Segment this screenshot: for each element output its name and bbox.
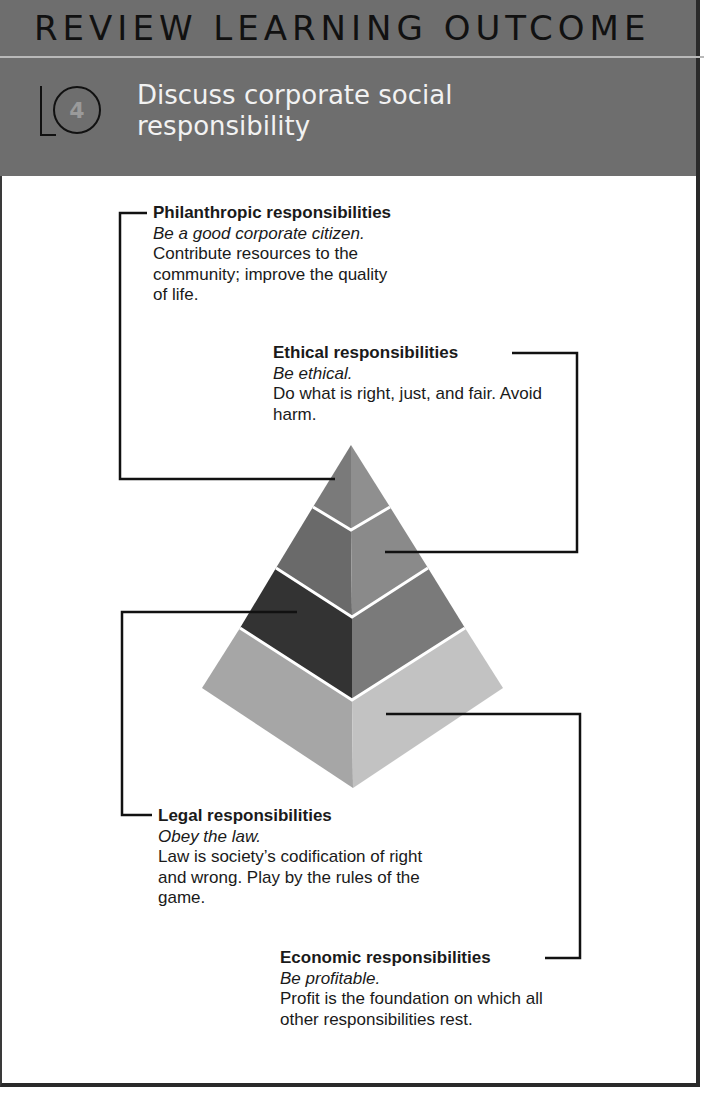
- legal-heading: Legal responsibilities: [158, 806, 438, 827]
- ethical-tagline: Be ethical.: [273, 364, 543, 385]
- philanthropic-heading: Philanthropic responsibilities: [153, 203, 393, 224]
- legal-responsibilities-block: Legal responsibilities Obey the law. Law…: [158, 806, 438, 909]
- economic-description: Profit is the foundation on which all ot…: [280, 989, 550, 1030]
- ethical-description: Do what is right, just, and fair. Avoid …: [273, 384, 543, 425]
- economic-heading: Economic responsibilities: [280, 948, 550, 969]
- legal-description: Law is society’s codification of right a…: [158, 847, 438, 909]
- philanthropic-description: Contribute resources to the community; i…: [153, 244, 393, 306]
- philanthropic-tagline: Be a good corporate citizen.: [153, 224, 393, 245]
- ethical-heading: Ethical responsibilities: [273, 343, 543, 364]
- philanthropic-responsibilities-block: Philanthropic responsibilities Be a good…: [153, 203, 393, 306]
- economic-responsibilities-block: Economic responsibilities Be profitable.…: [280, 948, 550, 1030]
- ethical-responsibilities-block: Ethical responsibilities Be ethical. Do …: [273, 343, 543, 425]
- legal-tagline: Obey the law.: [158, 827, 438, 848]
- economic-tagline: Be profitable.: [280, 969, 550, 990]
- csr-pyramid-diagram: [0, 0, 704, 1112]
